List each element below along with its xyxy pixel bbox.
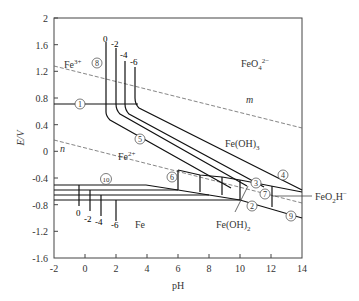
activity-label: -6 xyxy=(111,220,119,230)
y-tick-label: -0.8 xyxy=(32,200,48,211)
label-n: n xyxy=(60,143,65,154)
label-feo4: FeO42− xyxy=(241,57,269,72)
marker-1: 1 xyxy=(75,99,85,109)
marker-7: 7 xyxy=(260,189,270,199)
activity-label: -6 xyxy=(130,57,138,67)
y-tick-label: -1.6 xyxy=(32,253,48,264)
y-tick-label: -1.2 xyxy=(32,226,48,237)
y-tick-label: 0 xyxy=(43,146,48,157)
label-feoh2: Fe(OH)2 xyxy=(216,219,251,233)
x-tick-label: 8 xyxy=(207,263,212,274)
x-tick-label: 6 xyxy=(176,263,181,274)
activity-label: 0 xyxy=(103,34,108,44)
x-tick-label: 2 xyxy=(114,263,119,274)
activity-label: -4 xyxy=(120,50,128,60)
svg-text:9: 9 xyxy=(289,212,293,221)
marker-10: 10 xyxy=(101,174,112,185)
y-tick-label: 2 xyxy=(43,13,48,24)
label-feoh3: Fe(OH)3 xyxy=(225,138,260,152)
activity-label: 0 xyxy=(76,208,81,218)
y-tick-label: 1.6 xyxy=(36,40,49,51)
x-tick-label: 10 xyxy=(235,263,245,274)
svg-text:5: 5 xyxy=(138,135,142,144)
svg-text:8: 8 xyxy=(95,59,99,68)
marker-5: 5 xyxy=(135,134,145,144)
label-feo2h: FeO2H− xyxy=(315,190,347,205)
marker-3: 3 xyxy=(251,178,261,188)
x-tick-label: 0 xyxy=(83,263,88,274)
x-tick-label: -2 xyxy=(50,263,58,274)
svg-text:6: 6 xyxy=(170,173,174,182)
svg-text:10: 10 xyxy=(103,176,111,184)
x-axis xyxy=(85,254,271,258)
svg-text:1: 1 xyxy=(78,100,82,109)
activity-labels-bottom: 0 -2 -4 -6 xyxy=(76,208,119,230)
marker-8: 8 xyxy=(92,58,102,68)
y-tick-label: 0.4 xyxy=(36,120,49,131)
svg-text:3: 3 xyxy=(254,179,258,188)
label-m: m xyxy=(246,94,253,105)
x-tick-label: 4 xyxy=(145,263,150,274)
x-axis-label: pH xyxy=(172,280,184,291)
x-tick-labels: -2 0 2 4 6 8 10 12 14 xyxy=(50,263,307,274)
marker-4: 4 xyxy=(278,170,288,180)
label-fe: Fe xyxy=(135,219,146,230)
pourbaix-chart: 2 1.6 1.2 0.8 0.4 0 -0.4 -0.8 -1.2 -1.6 … xyxy=(0,0,359,301)
y-tick-labels: 2 1.6 1.2 0.8 0.4 0 -0.4 -0.8 -1.2 -1.6 xyxy=(32,13,48,264)
y-tick-label: -0.4 xyxy=(32,173,48,184)
x-tick-label: 14 xyxy=(297,263,307,274)
y-tick-label: 1.2 xyxy=(36,66,49,77)
label-fe3: Fe3+ xyxy=(64,58,82,70)
activity-label: -2 xyxy=(111,39,119,49)
svg-text:7: 7 xyxy=(263,190,267,199)
activity-label: -2 xyxy=(84,214,92,224)
svg-text:4: 4 xyxy=(281,171,285,180)
activity-label: -4 xyxy=(95,217,103,227)
y-axis xyxy=(54,18,58,231)
svg-text:2: 2 xyxy=(250,202,254,211)
x-tick-label: 12 xyxy=(266,263,276,274)
marker-9: 9 xyxy=(286,211,296,221)
circled-numbers: 1 2 3 4 5 6 7 8 9 10 xyxy=(75,58,296,221)
marker-6: 6 xyxy=(167,172,177,182)
y-tick-label: 0.8 xyxy=(36,93,49,104)
marker-2: 2 xyxy=(247,201,257,211)
y-axis-label: E/V xyxy=(15,129,26,147)
activity-labels-top: 0 -2 -4 -6 xyxy=(103,34,138,67)
line-m xyxy=(54,66,302,128)
